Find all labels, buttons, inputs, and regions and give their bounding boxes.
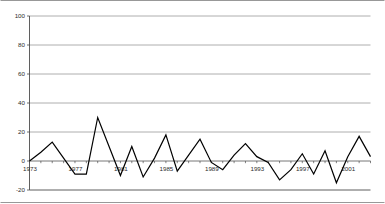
chart-container: 100806040200-20 197319771981198519891993… (0, 0, 385, 204)
x-tick-label-1973: 1973 (23, 165, 37, 172)
x-tick-label-1993: 1993 (250, 165, 264, 172)
y-tick-label--20: -20 (16, 186, 26, 193)
y-tick-label-60: 60 (18, 70, 25, 77)
x-tick-label-1985: 1985 (160, 165, 174, 172)
line-chart: 100806040200-20 197319771981198519891993… (0, 0, 385, 204)
y-tick-label-0: 0 (22, 157, 26, 164)
y-tick-label-80: 80 (18, 41, 25, 48)
chart-background (0, 0, 385, 204)
x-tick-label-1997: 1997 (296, 165, 310, 172)
y-tick-label-20: 20 (18, 128, 25, 135)
y-tick-label-100: 100 (15, 12, 26, 19)
y-tick-label-40: 40 (18, 99, 25, 106)
